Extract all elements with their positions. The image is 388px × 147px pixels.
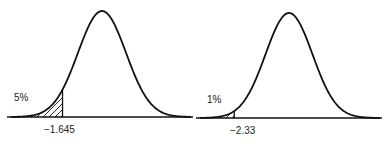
- hatch-line: [226, 58, 286, 118]
- hatch-line: [49, 57, 109, 117]
- hatch-line: [0, 57, 49, 117]
- hatch-line: [0, 57, 31, 117]
- hatch-line: [214, 58, 274, 118]
- hatch-line: [67, 57, 127, 117]
- hatch-line: [0, 57, 7, 117]
- hatch-line: [178, 58, 238, 118]
- hatch-line: [154, 58, 214, 118]
- normal-curves-figure: 5% −1.645 1% −2.33: [0, 0, 388, 147]
- hatch-line: [0, 57, 13, 117]
- hatch-line: [61, 57, 121, 117]
- hatch-line: [37, 57, 97, 117]
- hatch-line: [238, 58, 298, 118]
- hatch-line: [142, 58, 202, 118]
- normal-curve: [11, 11, 191, 117]
- critical-value-label: −1.645: [44, 124, 75, 135]
- hatch-line: [0, 57, 25, 117]
- hatch-line: [196, 58, 256, 118]
- tail-percent-label: 1%: [207, 94, 222, 105]
- hatch-line: [0, 57, 43, 117]
- hatch-line: [25, 57, 85, 117]
- hatch-line: [190, 58, 250, 118]
- hatch-line: [31, 57, 91, 117]
- hatch-line: [232, 58, 292, 118]
- hatch-line: [0, 57, 55, 117]
- hatch-line: [0, 57, 19, 117]
- hatch-line: [172, 58, 232, 118]
- hatch-line: [202, 58, 262, 118]
- shaded-tail-hatching: [136, 58, 304, 118]
- hatch-line: [160, 58, 220, 118]
- hatch-line: [220, 58, 280, 118]
- hatch-line: [0, 57, 37, 117]
- panel-5-percent: 5% −1.645: [0, 11, 193, 135]
- hatch-line: [136, 58, 196, 118]
- hatch-line: [244, 58, 304, 118]
- tail-percent-label: 5%: [14, 92, 29, 103]
- hatch-line: [184, 58, 244, 118]
- normal-curve: [200, 13, 380, 118]
- hatch-line: [166, 58, 226, 118]
- critical-value-label: −2.33: [230, 125, 256, 136]
